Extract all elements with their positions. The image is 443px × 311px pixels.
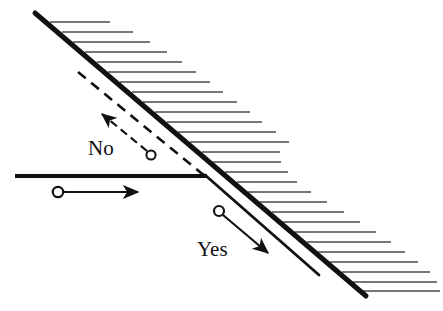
- corridor-inner-line-dashed: [78, 72, 206, 177]
- approach-arrow-origin-circle: [53, 187, 63, 197]
- approach-arrow: [53, 187, 138, 197]
- no-arrow-origin-circle: [146, 150, 155, 159]
- yes-arrow-shaft: [223, 215, 268, 253]
- no-label: No: [88, 136, 114, 160]
- diagram-canvas: No Yes: [0, 0, 443, 311]
- diagram-svg: No Yes: [0, 0, 443, 311]
- yes-arrow-origin-circle: [214, 206, 224, 216]
- yes-label: Yes: [197, 237, 228, 261]
